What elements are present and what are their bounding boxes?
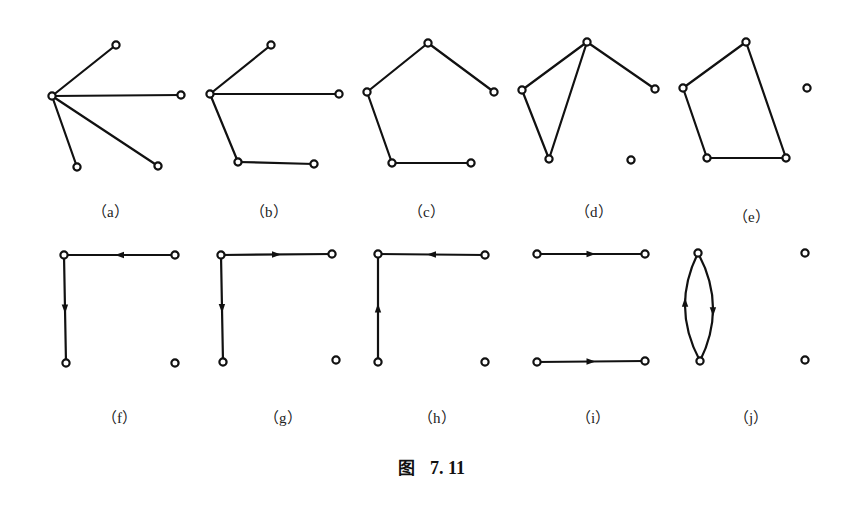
arrow-icon (375, 304, 381, 313)
edge-b-v1-v2 (210, 45, 271, 94)
node-j-v1 (694, 249, 701, 256)
subfigure-j: （j） (682, 249, 809, 426)
node-c-v5 (467, 159, 474, 166)
subfigure-label-a: （a） (92, 204, 129, 220)
arrow-icon (219, 304, 225, 313)
node-c-v1 (424, 39, 431, 46)
node-h-v3 (374, 358, 381, 365)
node-f-v1 (60, 251, 67, 258)
arrow-icon (427, 251, 436, 257)
edge-b-v1-v4 (210, 94, 238, 162)
node-c-v2 (363, 88, 370, 95)
node-d-v4 (545, 155, 552, 162)
node-f-v2 (171, 251, 178, 258)
node-d-v1 (583, 38, 590, 45)
node-j-v2 (801, 249, 808, 256)
node-i-v1 (533, 250, 540, 257)
node-h-v1 (374, 250, 381, 257)
caption-prefix: 图 (398, 458, 415, 478)
subfigure-g: （g） (217, 250, 339, 426)
node-j-v3 (696, 357, 703, 364)
node-b-v2 (267, 41, 274, 48)
edge-e-v2-v4 (683, 88, 707, 158)
node-d-v5 (627, 156, 634, 163)
node-g-v1 (217, 251, 224, 258)
node-a-v4 (73, 163, 80, 170)
edge-e-v5-v1 (746, 42, 786, 158)
graph-figure: （a）（b）（c）（d）（e）（f）（g）（h）（i）（j） 图 7. 11 (0, 0, 856, 505)
node-e-v3 (803, 84, 810, 91)
arrow-icon (586, 358, 595, 364)
subfigure-c: （c） (363, 39, 497, 220)
node-b-v5 (310, 160, 317, 167)
edge-e-v1-v2 (683, 42, 746, 88)
node-b-v1 (206, 90, 213, 97)
node-c-v3 (490, 88, 497, 95)
edge-j-v3-v1 (685, 253, 700, 361)
subfigure-label-g: （g） (264, 410, 302, 426)
edge-a-v1-v3 (52, 95, 181, 96)
node-e-v2 (679, 84, 686, 91)
subfigure-label-e: （e） (733, 209, 770, 225)
node-h-v4 (481, 358, 488, 365)
edge-d-v2-v4 (522, 90, 549, 159)
node-f-v4 (171, 359, 178, 366)
node-g-v3 (219, 358, 226, 365)
node-h-v2 (481, 251, 488, 258)
node-d-v3 (651, 85, 658, 92)
subfigure-label-f: （f） (102, 410, 137, 426)
node-g-v4 (332, 356, 339, 363)
subfigure-a: （a） (48, 41, 184, 220)
edge-a-v1-v2 (52, 45, 116, 96)
node-e-v5 (782, 154, 789, 161)
node-j-v4 (801, 356, 808, 363)
node-f-v3 (62, 359, 69, 366)
node-g-v2 (328, 250, 335, 257)
node-i-v4 (641, 357, 648, 364)
edge-c-v2-v4 (367, 92, 392, 163)
arrow-icon (272, 251, 281, 257)
subfigure-i: （i） (533, 250, 648, 426)
subfigure-f: （f） (60, 251, 178, 426)
caption-number: 7. 11 (430, 458, 465, 478)
edge-a-v1-v4 (52, 96, 77, 167)
node-a-v2 (112, 41, 119, 48)
arrow-icon (587, 251, 596, 257)
node-i-v3 (533, 358, 540, 365)
node-a-v5 (154, 162, 161, 169)
subfigure-b: （b） (206, 41, 342, 220)
arrow-icon (115, 252, 124, 258)
edge-d-v1-v2 (522, 42, 587, 90)
node-e-v1 (742, 38, 749, 45)
node-a-v3 (177, 91, 184, 98)
node-e-v4 (703, 154, 710, 161)
subfigure-label-b: （b） (250, 204, 288, 220)
edge-j-v1-v3 (698, 253, 713, 361)
subfigure-label-i: （i） (576, 410, 610, 426)
node-c-v4 (388, 159, 395, 166)
node-d-v2 (518, 86, 525, 93)
node-a-v1 (48, 92, 55, 99)
subfigure-label-j: （j） (734, 410, 768, 426)
subfigure-d: （d） (518, 38, 658, 220)
edge-b-v4-v5 (238, 162, 314, 164)
subfigure-label-d: （d） (575, 204, 613, 220)
subfigure-label-h: （h） (418, 410, 456, 426)
arrow-icon (62, 304, 68, 313)
subfigure-label-c: （c） (408, 204, 445, 220)
edge-d-v1-v3 (587, 42, 655, 89)
edge-c-v1-v2 (367, 43, 428, 92)
arrow-icon (710, 307, 716, 316)
node-b-v4 (234, 158, 241, 165)
edge-d-v1-v4 (549, 42, 587, 159)
arrow-icon (682, 298, 688, 307)
subfigure-h: （h） (374, 250, 488, 426)
node-b-v3 (335, 90, 342, 97)
edge-a-v1-v5 (52, 96, 158, 166)
node-i-v2 (641, 250, 648, 257)
edge-c-v1-v3 (428, 43, 494, 92)
subfigure-e: （e） (679, 38, 810, 225)
